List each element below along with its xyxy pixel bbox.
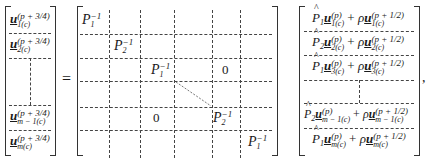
p-hat-symbol: P [312, 58, 320, 73]
matrix-entry-p2-inv: P−12 [213, 110, 232, 127]
subscript: 2(c) [331, 44, 344, 52]
subscript: 1 [257, 143, 268, 151]
matrix-zero-upper: 0 [222, 63, 229, 76]
plus-sign: + [347, 58, 354, 73]
p-symbol: P [151, 62, 160, 77]
rhs-ellipsis-divider [359, 80, 360, 103]
p-symbol: P [82, 12, 91, 27]
rhs-row-divider [304, 103, 414, 104]
p-hat-symbol: P [304, 107, 311, 121]
subscript: 3(c) [331, 68, 344, 76]
matrix-entry-p1-inv: P−11 [82, 12, 101, 29]
matrix-entry-p1-inv: P−11 [248, 134, 267, 151]
rhs-row-m: P1u(p)m(c) + ρu(p + 1/2)m(c) [312, 132, 406, 149]
rhs-row-m-1: P2u(p)m − 1(c) + ρu(p + 1/2)m − 1(c) [304, 107, 408, 124]
p-hat-symbol: P [312, 34, 320, 49]
subscript: 1(c) [331, 20, 344, 28]
rhs-row-3: P1u(p)3(c) + ρu(p + 1/2)3(c) [312, 59, 404, 76]
subscript: 3(c) [371, 68, 404, 76]
p-symbol: P [114, 38, 123, 53]
rhs-row-2: P2u(p)2(c) + ρu(p + 1/2)2(c) [312, 35, 404, 52]
subscript: 1(c) [371, 20, 404, 28]
matrix-entry-p1-inv: P−11 [151, 62, 170, 79]
rhs-row-divider [304, 128, 414, 129]
rhs-row-divider [304, 31, 414, 32]
trailing-comma: , [422, 70, 426, 86]
rhs-right-bracket [414, 6, 420, 156]
matrix-entry-p2-inv: P−12 [114, 38, 133, 55]
subscript: m − 1(c) [322, 116, 350, 124]
subscript: m − 1(c) [375, 116, 408, 124]
p-symbol: P [213, 110, 222, 125]
subscript: 2(c) [371, 44, 404, 52]
rhs-left-bracket [299, 6, 305, 156]
subscript: m(c) [331, 141, 346, 149]
matrix-zero-lower: 0 [153, 111, 160, 124]
plus-sign: + [347, 34, 354, 49]
subscript: 1 [160, 71, 171, 79]
subscript: 2 [123, 47, 134, 55]
p-symbol: P [248, 134, 257, 149]
subscript: 1 [91, 21, 102, 29]
subscript: m(c) [373, 141, 406, 149]
plus-sign: + [349, 131, 356, 146]
p-hat-symbol: P [312, 131, 320, 146]
plus-sign: + [347, 10, 354, 25]
rhs-row-divider [304, 55, 414, 56]
plus-sign: + [353, 107, 360, 121]
subscript: 2 [222, 119, 233, 127]
p-hat-symbol: P [312, 10, 320, 25]
rhs-row-1: P1u(p)1(c) + ρu(p + 1/2)1(c) [312, 11, 404, 28]
